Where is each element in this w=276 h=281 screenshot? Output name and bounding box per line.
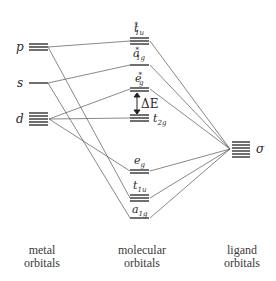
mo-t1u-star-label: t*1u [134, 21, 144, 37]
delta-e-label: ΔE [141, 97, 158, 111]
caption-ligand-line2: orbitals [224, 256, 260, 270]
ligand-sigma-label: σ [256, 142, 265, 156]
mo-eg-star-label: e*g [135, 71, 144, 87]
mo-t1u-level [130, 195, 149, 201]
metal-d-label: d [16, 112, 24, 126]
mo-t1u-star-level [130, 38, 149, 44]
mo-diagram: p s d t*1u a*1g e*g ΔE [0, 0, 276, 281]
mo-a1g-star-label: a*1g [133, 46, 146, 62]
caption-molecular-line2: orbitals [124, 256, 160, 270]
metal-s-label: s [17, 76, 23, 90]
mo-t2g-label: t2g [153, 112, 167, 127]
metal-p-level [29, 44, 48, 50]
mo-eg-label: eg [134, 154, 146, 169]
mo-t1u-label: t1u [133, 179, 147, 194]
mo-t2g-level [130, 115, 149, 121]
caption-metal-line1: metal [29, 243, 56, 257]
delta-e-arrow [134, 93, 140, 114]
ligand-sigma-level [232, 142, 250, 157]
mo-a1g-label: a1g [132, 203, 148, 218]
metal-p-label: p [16, 40, 24, 54]
metal-d-level [29, 113, 48, 125]
caption-ligand-line1: ligand [227, 243, 257, 257]
caption-molecular-line1: molecular [118, 243, 166, 257]
mo-eg-level [130, 170, 149, 173]
caption-metal-line2: orbitals [24, 256, 60, 270]
mo-eg-star-level [130, 88, 149, 91]
